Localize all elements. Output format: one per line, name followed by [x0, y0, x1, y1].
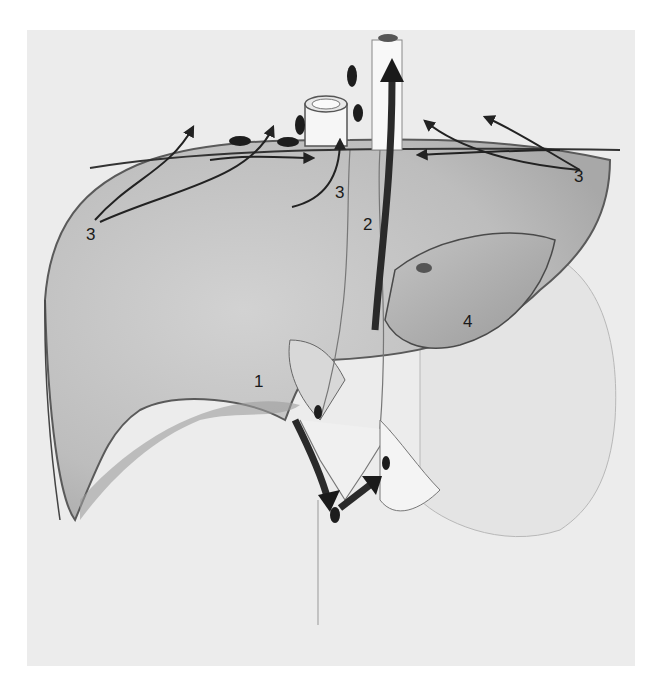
porta-hepatis	[300, 420, 440, 625]
label-3-left: 3	[86, 226, 95, 243]
label-2: 2	[363, 216, 372, 233]
label-4: 4	[463, 313, 472, 330]
liver-illustration	[0, 0, 660, 692]
label-1: 1	[254, 373, 263, 390]
inferior-vena-cava	[305, 96, 347, 146]
label-3-right: 3	[574, 168, 583, 185]
upper-tube	[372, 34, 402, 150]
label-3-center: 3	[335, 184, 344, 201]
